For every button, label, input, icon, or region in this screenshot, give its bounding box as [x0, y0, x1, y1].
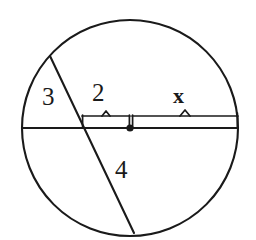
label-segment-x: x — [173, 85, 184, 107]
geometry-figure: 3 2 x 4 — [0, 0, 256, 240]
brace-segment-x-center-peak — [180, 110, 190, 116]
geometry-canvas — [0, 0, 256, 240]
label-segment-4: 4 — [115, 157, 128, 182]
brace-segment-2 — [82, 111, 130, 127]
label-segment-3: 3 — [42, 84, 55, 109]
label-segment-2: 2 — [92, 80, 105, 105]
brace-segment-x — [132, 110, 238, 128]
